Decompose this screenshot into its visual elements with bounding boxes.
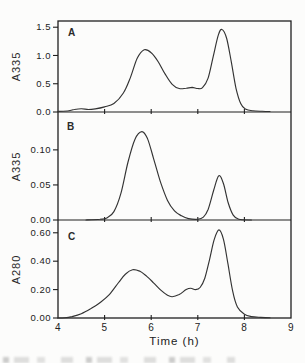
plot-frame xyxy=(58,21,291,318)
y-tick-label-panel-b: 0.05 xyxy=(31,179,52,190)
y-tick-label-panel-c: 0.00 xyxy=(31,312,52,323)
y-tick-label-panel-a: 1.5 xyxy=(36,21,51,32)
y-tick-label-panel-a: 0.0 xyxy=(36,106,51,117)
plot-canvas: 0.00.51.01.50.000.050.100.000.200.400.60… xyxy=(0,0,305,363)
y-axis-label-panel-b: A335 xyxy=(10,145,23,189)
x-tick-label: 7 xyxy=(195,322,201,333)
y-tick-label-panel-b: 0.10 xyxy=(31,144,52,155)
x-tick-label: 6 xyxy=(148,322,154,333)
series-curve-panel-a xyxy=(58,29,270,111)
y-tick-label-panel-c: 0.60 xyxy=(31,227,52,238)
chromatogram-figure: 0.00.51.01.50.000.050.100.000.200.400.60… xyxy=(0,0,305,363)
y-tick-label-panel-c: 0.40 xyxy=(31,255,52,266)
x-tick-label: 9 xyxy=(288,322,294,333)
series-curve-panel-c xyxy=(58,230,270,318)
panel-letter-c: C xyxy=(68,231,82,243)
y-axis-label-panel-c: A280 xyxy=(10,248,23,292)
x-tick-label: 5 xyxy=(102,322,108,333)
y-axis-label-panel-a: A335 xyxy=(10,45,23,89)
y-tick-label-panel-a: 0.5 xyxy=(36,78,51,89)
y-tick-label-panel-b: 0.00 xyxy=(31,214,52,225)
series-curve-panel-b xyxy=(86,132,251,220)
cut-off-caption-fragment xyxy=(3,357,235,363)
y-tick-label-panel-c: 0.20 xyxy=(31,284,52,295)
x-tick-label: 4 xyxy=(55,322,61,333)
panel-letter-b: B xyxy=(67,121,81,133)
x-tick-label: 8 xyxy=(241,322,247,333)
y-tick-label-panel-a: 1.0 xyxy=(36,50,51,61)
x-axis-title: Time (h) xyxy=(58,335,291,349)
panel-letter-a: A xyxy=(68,27,82,39)
